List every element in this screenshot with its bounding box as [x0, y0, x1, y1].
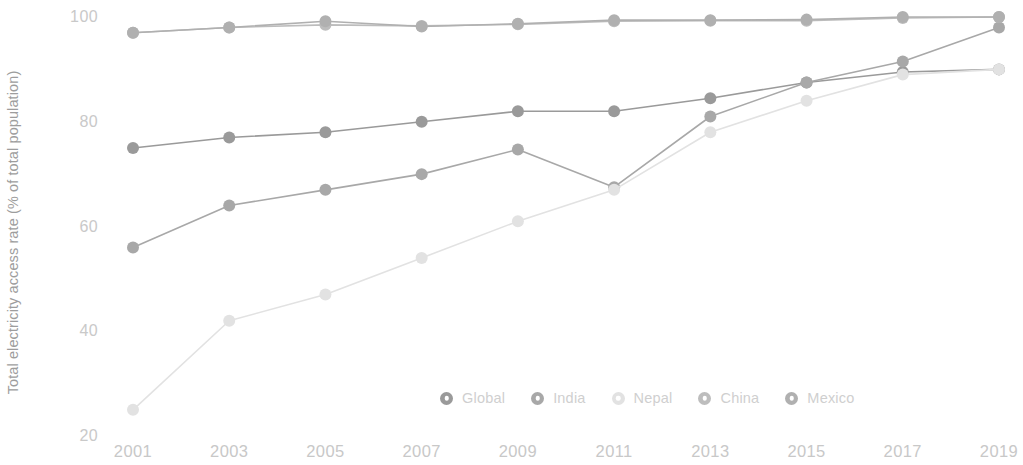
x-tick-label: 2019 [954, 442, 1023, 461]
legend-label: Mexico [807, 390, 854, 406]
legend-marker-icon [698, 392, 711, 405]
chart-legend: GlobalIndiaNepalChinaMexico [440, 386, 855, 410]
legend-marker-icon [785, 392, 798, 405]
x-tick-label: 2011 [569, 442, 659, 461]
x-tick-label: 2017 [858, 442, 948, 461]
x-tick-label: 2013 [665, 442, 755, 461]
x-tick-label: 2003 [184, 442, 274, 461]
legend-marker-icon [531, 392, 544, 405]
x-tick-label: 2015 [762, 442, 852, 461]
legend-label: India [553, 390, 585, 406]
x-tick-label: 2001 [88, 442, 178, 461]
legend-item-india[interactable]: India [531, 390, 585, 406]
x-tick-label: 2005 [280, 442, 370, 461]
legend-item-nepal[interactable]: Nepal [612, 390, 673, 406]
legend-marker-icon [612, 392, 625, 405]
legend-label: Nepal [634, 390, 673, 406]
legend-marker-icon [440, 392, 453, 405]
legend-item-china[interactable]: China [698, 390, 759, 406]
legend-label: Global [462, 390, 505, 406]
legend-item-mexico[interactable]: Mexico [785, 390, 854, 406]
line-chart: Total electricity access rate (% of tota… [0, 0, 1023, 465]
x-tick-label: 2007 [377, 442, 467, 461]
legend-label: China [720, 390, 759, 406]
legend-item-global[interactable]: Global [440, 390, 505, 406]
x-tick-label: 2009 [473, 442, 563, 461]
